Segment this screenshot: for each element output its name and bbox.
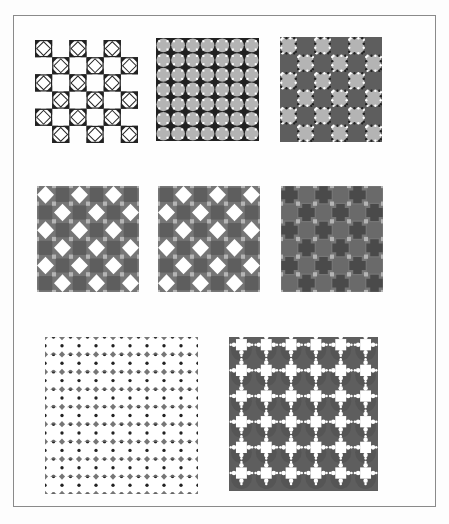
white-crosses-on-dark-graphic [229, 337, 378, 491]
dark-checker-white-diamonds-b-graphic [158, 186, 260, 292]
pattern-panel-dark-checker-white-diamonds-b [158, 186, 260, 292]
dark-checker-gray-studded-squares-graphic [280, 37, 382, 142]
pattern-panel-white-circles-diagonal-chain [45, 337, 198, 494]
white-circles-diagonal-chain-graphic [45, 337, 198, 494]
pattern-panel-dark-checker-white-diamonds-a [37, 186, 139, 292]
dark-checker-dark-crosses-graphic [281, 186, 383, 292]
pattern-panel-dark-checker-dark-crosses [281, 186, 383, 292]
pattern-panel-white-crosses-on-dark [229, 337, 378, 491]
pattern-panel-checker-diamond-outline [35, 40, 138, 143]
pattern-panel-gray-octagons-black-stars [156, 38, 259, 141]
dark-checker-white-diamonds-a-graphic [37, 186, 139, 292]
pattern-panel-dark-checker-gray-studded-squares [280, 37, 382, 142]
gray-octagons-black-stars-graphic [156, 38, 259, 141]
checker-diamond-outline-graphic [35, 40, 138, 143]
